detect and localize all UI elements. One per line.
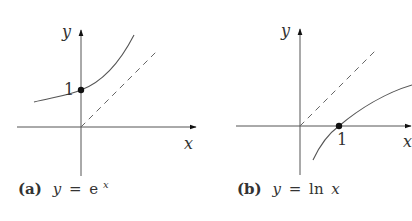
y-axis-label-a: y <box>61 22 72 41</box>
caption-lhs-b: y <box>271 180 281 198</box>
caption-fn-b: ln <box>309 180 324 198</box>
x-axis-label-a: x <box>184 134 193 153</box>
caption-op-a: = <box>69 180 82 198</box>
figure-canvas: 1 y x (a) y = e x 1 y x (b) y = ln x <box>0 0 412 221</box>
dashed-line-y-equals-x-a <box>81 50 158 127</box>
caption-a: (a) y = e x <box>18 179 109 198</box>
point-0-1 <box>78 87 84 93</box>
panel-a: 1 y x (a) y = e x <box>17 22 196 198</box>
caption-lhs-a: y <box>52 180 62 198</box>
point-label-a: 1 <box>64 80 74 99</box>
caption-tag-a: (a) <box>18 180 42 198</box>
caption-exp-a: x <box>103 179 109 190</box>
point-label-b: 1 <box>337 130 347 149</box>
dashed-line-y-equals-x-b <box>300 49 377 126</box>
y-axis-label-b: y <box>280 21 291 40</box>
caption-op-b: = <box>289 180 302 198</box>
caption-base-a: e <box>89 180 98 198</box>
caption-tag-b: (b) <box>237 180 262 198</box>
exp-curve <box>34 35 134 102</box>
caption-b: (b) y = ln x <box>237 180 340 198</box>
ln-curve <box>313 85 412 160</box>
panel-b: 1 y x (b) y = ln x <box>236 21 412 198</box>
point-1-0 <box>336 123 342 129</box>
x-axis-label-b: x <box>403 132 412 151</box>
caption-arg-b: x <box>331 180 340 198</box>
